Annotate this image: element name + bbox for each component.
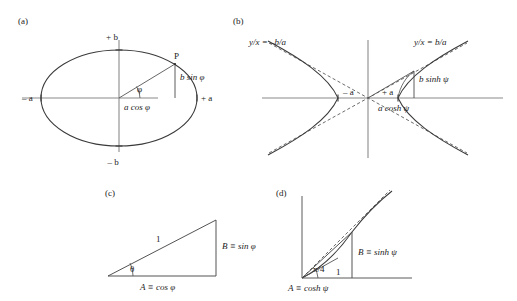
ellipse-left-vertex-label: – a	[21, 93, 33, 103]
triangle-c-height-label: B ≡ sin φ	[222, 241, 256, 251]
panel-d: (d) π/4 1 B ≡ sinh ψ A ≡ cosh ψ	[276, 188, 412, 293]
ellipse-radius-line	[119, 64, 175, 98]
panel-a-label: (a)	[18, 16, 28, 26]
panel-c-label: (c)	[105, 188, 115, 198]
panel-c: (c) 1 θ A ≡ cos φ B ≡ sin φ	[105, 188, 256, 292]
ellipse-point-p-label: P	[174, 51, 179, 61]
triangle-c-angle-label: θ	[130, 264, 134, 274]
panel-d-angle-label: π/4	[313, 264, 325, 274]
figure-root: (a) + b – b – a + a P φ a cos φ b s	[0, 0, 517, 301]
ellipse-point-p-dot	[174, 63, 176, 65]
panel-d-label: (d)	[276, 188, 287, 198]
figure-canvas: (a) + b – b – a + a P φ a cos φ b s	[0, 0, 517, 301]
ellipse-angle-label: φ	[137, 84, 142, 94]
hyperbola-left-vertex-label: – a	[342, 87, 354, 97]
triangle-c-hypotenuse-label: 1	[156, 234, 161, 244]
hyperbola-vertical-leg-label: b sinh ψ	[419, 74, 449, 84]
panel-b: (b) y/x = –b/a y/x = b/a – a + a b sinh …	[233, 16, 503, 158]
panel-d-unit-label: 1	[336, 267, 341, 277]
panel-a: (a) + b – b – a + a P φ a cos φ b s	[18, 16, 212, 167]
ellipse-bottom-vertex-label: – b	[106, 157, 119, 167]
asymptote-right-label: y/x = b/a	[413, 37, 447, 47]
triangle-c-base-label: A ≡ cos φ	[139, 282, 175, 292]
asymptote-left-label: y/x = –b/a	[248, 37, 287, 47]
ellipse-vertical-leg-label: b sin φ	[180, 72, 205, 82]
ellipse-horizontal-leg-label: a cos φ	[124, 102, 150, 112]
ellipse-right-vertex-label: + a	[201, 93, 212, 103]
panel-d-height-label: B ≡ sinh ψ	[358, 247, 397, 257]
hyperbola-right-vertex-label: + a	[382, 87, 393, 97]
hyperbola-horizontal-leg-label: a cosh ψ	[378, 103, 409, 113]
panel-d-base-label: A ≡ cosh ψ	[287, 283, 329, 293]
ellipse-top-vertex-label: + b	[106, 32, 118, 42]
panel-b-label: (b)	[233, 16, 244, 26]
triangle-c-hypotenuse	[108, 220, 216, 276]
panel-d-hypotenuse	[302, 232, 352, 278]
